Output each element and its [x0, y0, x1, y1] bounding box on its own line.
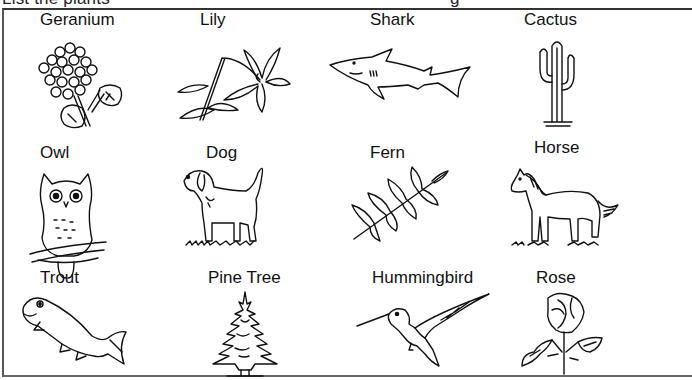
lily-icon: [172, 40, 292, 130]
horse-icon: [508, 165, 628, 250]
label-dog: Dog: [206, 143, 237, 163]
label-owl: Owl: [40, 143, 69, 163]
label-pine-tree: Pine Tree: [208, 268, 281, 288]
shark-icon: [328, 45, 478, 105]
hummingbird-icon: [355, 290, 495, 375]
geranium-icon: [30, 40, 130, 130]
cactus-icon: [528, 38, 588, 128]
label-fern: Fern: [370, 143, 405, 163]
fern-icon: [350, 165, 450, 245]
label-cactus: Cactus: [524, 10, 577, 30]
label-geranium: Geranium: [40, 10, 115, 30]
label-shark: Shark: [370, 10, 414, 30]
label-lily: Lily: [200, 10, 226, 30]
label-rose: Rose: [536, 268, 576, 288]
label-trout: Trout: [40, 268, 79, 288]
label-hummingbird: Hummingbird: [372, 268, 473, 288]
pine-tree-icon: [205, 290, 285, 378]
label-horse: Horse: [534, 138, 579, 158]
rose-icon: [518, 292, 618, 377]
trout-icon: [18, 292, 133, 377]
heading-text-right: g: [450, 0, 460, 8]
heading-text: List the plants: [2, 0, 110, 8]
owl-icon: [28, 170, 108, 280]
dog-icon: [182, 165, 282, 250]
